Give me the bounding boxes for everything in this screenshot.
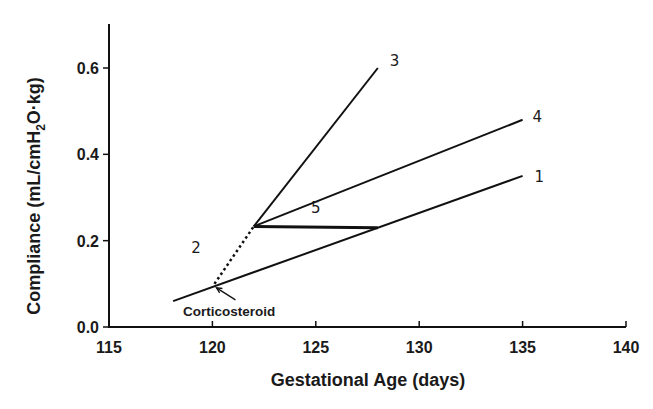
y-axis-title-post: O·kg) bbox=[24, 77, 44, 124]
series-label-5: 5 bbox=[311, 199, 321, 217]
annotation-label: Corticosteroid bbox=[183, 304, 275, 319]
x-tick-label: 140 bbox=[613, 339, 640, 356]
series-label-2: 2 bbox=[191, 239, 201, 257]
x-tick-label: 135 bbox=[509, 339, 536, 356]
series-line-5 bbox=[254, 226, 378, 227]
chart: 115120125130135140 0.00.20.40.6 12345 Co… bbox=[0, 0, 653, 409]
series-label-4: 4 bbox=[533, 108, 543, 126]
series-line-1 bbox=[173, 176, 522, 301]
x-tick-label: 125 bbox=[302, 339, 329, 356]
annotation-arrow bbox=[216, 288, 235, 300]
y-axis-title-pre: Compliance (mL/cmH bbox=[24, 131, 44, 315]
y-ticks: 0.00.20.40.6 bbox=[77, 60, 109, 336]
series-group: 12345 bbox=[173, 52, 544, 301]
x-axis-title: Gestational Age (days) bbox=[271, 370, 465, 390]
x-tick-label: 130 bbox=[406, 339, 433, 356]
x-tick-label: 120 bbox=[199, 339, 226, 356]
x-tick-label: 115 bbox=[96, 339, 122, 356]
y-tick-label: 0.4 bbox=[77, 146, 99, 163]
series-line-4 bbox=[254, 120, 523, 227]
y-axis-title: Compliance (mL/cmH2O·kg) bbox=[24, 77, 48, 315]
series-label-1: 1 bbox=[535, 168, 545, 186]
y-tick-label: 0.2 bbox=[77, 233, 99, 250]
y-tick-label: 0.0 bbox=[77, 319, 99, 336]
axes bbox=[108, 24, 626, 328]
y-tick-label: 0.6 bbox=[77, 60, 99, 77]
series-label-3: 3 bbox=[390, 52, 400, 70]
